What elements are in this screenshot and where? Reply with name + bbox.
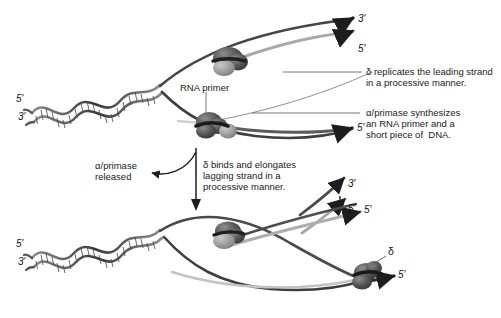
polymerase-delta-top: [213, 47, 248, 76]
bottom-leading-new: [232, 212, 360, 245]
annotation-alpha-released-line2: released: [95, 171, 131, 183]
label-bottom-helix-5prime: 5′: [16, 238, 23, 250]
label-delta-symbol: δ: [388, 246, 394, 258]
label-top-right-3prime: 3′: [358, 13, 365, 25]
label-bottom-helix-3prime: 3′: [18, 256, 25, 268]
annotation-delta-leading-line1: δ replicates the leading strand: [366, 66, 493, 78]
label-bottom-right-5prime-b: 5′: [398, 269, 405, 281]
bottom-dna-helix: [24, 230, 162, 273]
bottom-lagging-light: [172, 272, 362, 287]
bottom-panel: [24, 204, 394, 290]
annotation-alpha-primase-line3: short piece of DNA.: [366, 129, 451, 141]
label-top-helix-3prime: 3′: [18, 111, 25, 123]
polymerase-delta-bottom-mid: [213, 222, 245, 250]
annotation-alpha-released-line1: α/primase: [95, 160, 137, 172]
annotation-delta-binds-line2: lagging strand in a: [203, 170, 281, 182]
label-top-helix-5prime: 5′: [16, 93, 23, 105]
annotation-delta-leading-line2: in a processive manner.: [366, 77, 466, 89]
annotation-delta-binds-line1: δ binds and elongates: [203, 159, 296, 171]
annotation-alpha-primase-line1: α/primase synthesizes: [366, 107, 460, 119]
bottom-leading-template: [160, 217, 356, 277]
label-bottom-right-5prime: 5′: [364, 204, 371, 216]
replication-fork-diagram: 5′ 3′ 3′ 5′ RNA primer δ replicates the …: [0, 0, 501, 318]
polymerase-alpha-primase-top: [196, 112, 237, 139]
down-arrow-head: [191, 199, 201, 211]
label-top-right-5prime: 5′: [358, 43, 365, 55]
polymerase-delta-bottom-right: [352, 261, 382, 290]
alpha-released-arrow: [152, 152, 196, 174]
label-mid-right-3prime: 3′: [348, 178, 355, 190]
annotation-delta-binds-line3: processive manner.: [203, 181, 285, 193]
bottom-lagging-template: [164, 237, 362, 290]
top-panel: [24, 18, 372, 139]
top-primer-dna-segment: [232, 128, 348, 132]
top-lagging-thin: [214, 72, 372, 121]
top-dna-helix: [24, 85, 162, 128]
label-rna-primer: RNA primer: [180, 82, 229, 94]
label-mid-right-5prime-b: 5′: [348, 203, 355, 215]
label-mid-right-5prime: 5′: [357, 122, 364, 134]
annotation-alpha-primase-line2: an RNA primer and a: [366, 118, 455, 130]
